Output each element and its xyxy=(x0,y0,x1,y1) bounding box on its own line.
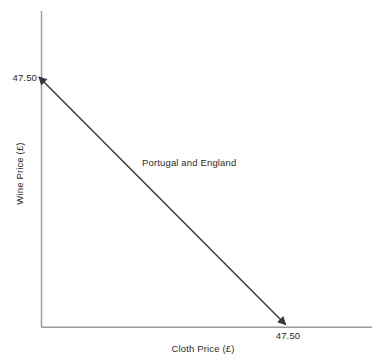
y-axis-tick-label-47-50: 47.50 xyxy=(0,72,37,83)
chart-plot-area xyxy=(0,0,379,363)
y-axis-title: Wine Price (£) xyxy=(14,141,25,207)
x-axis-title: Cloth Price (£) xyxy=(143,343,263,354)
demand-line-portugal-and-england xyxy=(44,82,286,325)
chart-canvas: 47.50 47.50 Portugal and England Cloth P… xyxy=(0,0,379,363)
x-axis-tick-label-47-50: 47.50 xyxy=(258,330,318,341)
series-annotation-portugal-and-england: Portugal and England xyxy=(142,157,236,168)
